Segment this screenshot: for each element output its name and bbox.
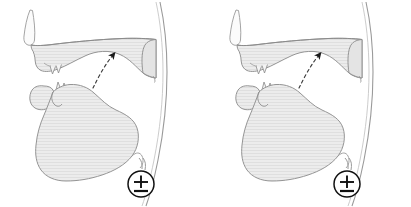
larynx xyxy=(139,158,145,170)
voicing-symbol xyxy=(334,171,360,197)
velum-raise-arrow xyxy=(299,55,319,88)
sagittal-diagram-panel-left xyxy=(0,0,205,207)
tongue-body xyxy=(242,84,345,181)
epiglottis xyxy=(338,153,349,168)
velum-raise-arrow xyxy=(93,55,113,88)
larynx xyxy=(345,158,351,170)
nose-outline xyxy=(230,10,241,45)
nose-outline xyxy=(24,10,35,45)
tongue-body xyxy=(36,84,139,181)
sagittal-svg-left xyxy=(0,0,205,207)
upper-articulator-mass xyxy=(237,38,362,78)
figure-root: Sagittal vocal tract diagrams Two identi… xyxy=(0,0,411,207)
sagittal-svg-right xyxy=(206,0,411,207)
sagittal-diagram-panel-right xyxy=(206,0,411,207)
upper-articulator-mass xyxy=(31,38,156,78)
epiglottis xyxy=(132,153,143,168)
voicing-symbol xyxy=(128,171,154,197)
